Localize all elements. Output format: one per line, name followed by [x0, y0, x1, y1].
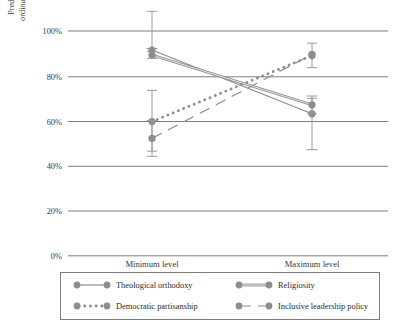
gridlines [68, 31, 388, 256]
legend-label-democratic-partisanship: Democratic partisanship [116, 302, 198, 311]
legend-label-inclusive-leadership-policy: Inclusive leadership policy [278, 302, 368, 311]
legend-item-democratic-partisanship: Democratic partisanship [71, 300, 198, 312]
legend-symbol-solid-line [71, 279, 113, 291]
series-inclusive-leadership-policy [147, 51, 316, 157]
chart-figure: Predicted support for female ordination … [0, 0, 395, 325]
chart-legend: Theological orthodoxy Religiosity Democr… [60, 272, 380, 320]
legend-label-theological-orthodoxy: Theological orthodoxy [116, 281, 193, 290]
legend-symbol-double-line [233, 279, 275, 291]
x-tick-maximum-level: Maximum level [285, 259, 340, 269]
legend-symbol-dashed-line [233, 300, 275, 312]
legend-item-theological-orthodoxy: Theological orthodoxy [71, 279, 193, 291]
legend-item-religiosity: Religiosity [233, 279, 315, 291]
x-tick-minimum-level: Minimum level [125, 259, 178, 269]
legend-item-inclusive-leadership-policy: Inclusive leadership policy [233, 300, 368, 312]
legend-label-religiosity: Religiosity [278, 281, 315, 290]
legend-symbol-dotted-line [71, 300, 113, 312]
